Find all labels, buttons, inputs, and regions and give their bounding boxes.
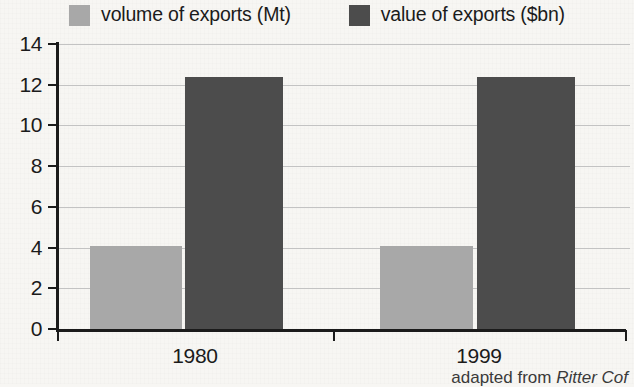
x-axis-label-1980: 1980: [172, 345, 218, 366]
bar-1980-series-2: [185, 77, 283, 329]
y-tick-label-10: 10: [19, 114, 42, 135]
bar-1999-series-1: [380, 246, 473, 329]
y-tick-label-8: 8: [31, 155, 42, 176]
y-tick-label-4: 4: [31, 237, 42, 258]
caption-source-title: Ritter Cof: [556, 368, 628, 387]
y-tick-label-6: 6: [31, 196, 42, 217]
caption-prefix: adapted from: [451, 368, 556, 387]
bar-1980-series-1: [90, 246, 182, 329]
y-tick-label-14: 14: [19, 33, 42, 54]
y-axis-line: [56, 42, 59, 332]
x-axis-label-1999: 1999: [456, 345, 502, 366]
y-tick-label-12: 12: [19, 74, 42, 95]
bar-1999-series-2: [477, 77, 575, 329]
y-tick-label-2: 2: [31, 277, 42, 298]
y-tick-label-0: 0: [31, 318, 42, 339]
x-tick-0: [57, 330, 59, 341]
source-caption: adapted from Ritter Cof: [451, 368, 628, 387]
x-tick-1: [333, 330, 335, 341]
x-axis-line: [56, 329, 626, 332]
gridline-14: [58, 44, 630, 45]
x-tick-2: [625, 330, 627, 341]
